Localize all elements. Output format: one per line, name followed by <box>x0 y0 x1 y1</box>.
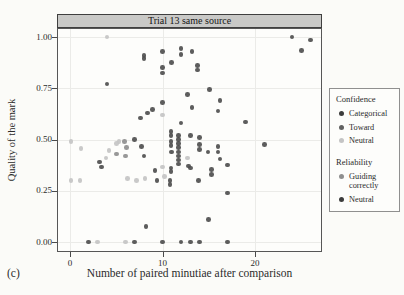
data-point <box>169 133 174 138</box>
figure-label: (c) <box>7 267 20 279</box>
data-point <box>69 178 74 183</box>
data-point <box>216 109 221 114</box>
scatter-figure: Trial 13 same source 0.000.250.500.751.0… <box>0 0 404 295</box>
data-point <box>225 163 230 168</box>
data-point <box>142 154 147 159</box>
data-point <box>143 176 148 181</box>
data-point <box>206 217 211 222</box>
legend-item-label: Neutral <box>349 195 374 205</box>
data-point <box>132 137 137 142</box>
data-point <box>124 145 129 150</box>
data-point <box>132 240 137 245</box>
legend-key-dot <box>339 174 344 179</box>
gridline-vertical <box>163 29 164 251</box>
plot-panel <box>57 28 322 252</box>
data-point <box>179 46 184 51</box>
gridline-horizontal <box>58 37 321 38</box>
legend-item: Categorical <box>336 109 397 119</box>
data-point <box>125 176 130 181</box>
data-point <box>86 240 91 245</box>
data-point <box>162 174 167 179</box>
data-point <box>107 148 112 153</box>
y-tick-mark <box>52 242 57 243</box>
legend-item-label: Neutral <box>349 136 374 146</box>
legend-key-dot <box>339 138 344 143</box>
y-tick-mark <box>52 37 57 38</box>
data-point <box>169 169 174 174</box>
data-point <box>123 154 128 159</box>
data-point <box>188 166 193 171</box>
gridline-horizontal <box>58 191 321 192</box>
legend-item: Neutral <box>336 195 397 205</box>
data-point <box>218 98 223 103</box>
data-point <box>179 52 184 57</box>
data-point <box>176 162 181 167</box>
legend-box: ConfidenceCategoricalTowardNeutralReliab… <box>329 88 400 212</box>
y-tick-label: 0.75 <box>24 83 52 94</box>
data-point <box>150 107 155 112</box>
data-point <box>160 100 165 105</box>
data-point <box>209 167 214 172</box>
y-tick-mark <box>52 191 57 192</box>
data-point <box>188 240 193 245</box>
data-point <box>169 143 174 148</box>
data-point <box>99 165 104 170</box>
y-tick-label: 0.00 <box>24 237 52 248</box>
data-point <box>185 156 190 161</box>
gridline-horizontal <box>58 140 321 141</box>
x-tick-mark <box>70 252 71 257</box>
data-point <box>218 157 223 162</box>
data-point <box>134 178 139 183</box>
data-point <box>160 113 165 118</box>
data-point <box>145 111 150 116</box>
data-point <box>123 240 128 245</box>
x-tick-mark <box>163 252 164 257</box>
legend-key-dot <box>339 197 344 202</box>
data-point <box>216 150 221 155</box>
data-point <box>207 87 212 92</box>
data-point <box>114 152 119 157</box>
data-point <box>160 65 165 70</box>
legend-section-title: Reliability <box>336 157 397 167</box>
legend-section-title: Confidence <box>336 94 397 104</box>
data-point <box>69 139 74 144</box>
data-point <box>160 71 165 76</box>
panel-title: Trial 13 same source <box>148 15 231 26</box>
data-point <box>139 144 144 149</box>
legend-item-label: Guiding correctly <box>349 172 397 191</box>
data-point <box>308 38 313 43</box>
data-point <box>169 150 174 155</box>
data-point <box>153 168 158 173</box>
data-point <box>225 191 230 196</box>
data-point <box>190 105 195 110</box>
legend-item: Guiding correctly <box>336 172 397 191</box>
data-point <box>138 116 143 121</box>
data-point <box>185 92 190 97</box>
data-point <box>197 240 202 245</box>
data-point <box>216 144 221 149</box>
data-point <box>104 156 109 161</box>
data-point <box>197 135 202 140</box>
legend-item: Toward <box>336 123 397 133</box>
data-point <box>160 165 165 170</box>
gridline-vertical <box>255 29 256 251</box>
data-point <box>290 35 295 40</box>
data-point <box>78 178 83 183</box>
data-point <box>144 224 149 229</box>
data-point <box>190 49 195 54</box>
legend-item-label: Categorical <box>349 109 387 119</box>
data-point <box>168 182 173 187</box>
data-point <box>105 35 110 40</box>
data-point <box>188 133 193 138</box>
y-tick-mark <box>52 140 57 141</box>
legend-key-dot <box>339 125 344 130</box>
legend-item-label: Toward <box>349 123 374 133</box>
y-tick-label: 0.25 <box>24 185 52 196</box>
gridline-horizontal <box>58 88 321 89</box>
legend-section-gap <box>336 150 397 157</box>
y-axis-label: Quality of the mark <box>6 60 22 220</box>
y-tick-mark <box>52 88 57 89</box>
legend-item: Neutral <box>336 136 397 146</box>
data-point <box>206 150 211 155</box>
data-point <box>209 172 214 177</box>
